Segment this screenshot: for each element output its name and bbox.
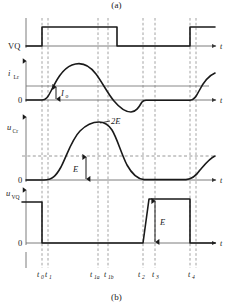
panel-ilr: i Lr 0 t I o: [8, 61, 223, 112]
ilr-axis-label: t: [220, 96, 223, 105]
uvq-axis-label: t: [220, 239, 223, 248]
io-annotation-sub: o: [66, 93, 69, 99]
figure-caption-a: (a): [0, 0, 233, 10]
io-annotation-main: I: [60, 88, 65, 98]
ucr-waveform: [26, 122, 215, 180]
uvq-label-main: u: [6, 188, 10, 198]
ilr-zero-label: 0: [18, 95, 22, 105]
tick-t1a-main: t: [90, 270, 93, 279]
ucr-label-main: u: [7, 122, 11, 132]
tick-t3-sub: 3: [155, 274, 159, 280]
ucr-label-sub: Cr: [13, 128, 19, 134]
vq-label: VQ: [8, 41, 20, 51]
tick-t2-main: t: [138, 270, 141, 279]
tick-t1b-main: t: [104, 270, 107, 279]
tick-t0-main: t: [37, 270, 40, 279]
uvq-waveform: [22, 199, 215, 243]
tick-t1-main: t: [45, 270, 48, 279]
ilr-label-main: i: [8, 68, 11, 78]
vq-axis-label: t: [220, 42, 223, 51]
tick-t3-main: t: [152, 270, 155, 279]
ucr-zero-label: 0: [18, 175, 22, 185]
tick-t4-main: t: [188, 270, 191, 279]
waveform-figure: (a): [0, 0, 233, 306]
panel-uvq: u VQ 0 t E: [6, 188, 223, 248]
tick-t1b-sub: 1b: [108, 274, 114, 280]
ucr-e-label: E: [72, 164, 79, 174]
uvq-zero-label: 0: [18, 238, 22, 248]
tick-t1-sub: 1: [49, 274, 52, 280]
ilr-waveform: [26, 64, 215, 112]
uvq-e-label: E: [159, 217, 166, 227]
figure-caption-b: (b): [0, 292, 233, 302]
uvq-label-sub: VQ: [12, 194, 20, 200]
vq-waveform: [26, 27, 215, 46]
tick-t4-sub: 4: [192, 274, 195, 280]
ucr-peak-label: 2E: [111, 116, 121, 126]
ucr-axis-label: t: [220, 176, 223, 185]
panel-ucr: u Cr 0 t 2E E: [7, 116, 223, 185]
tick-t0-sub: 0: [41, 274, 44, 280]
tick-t2-sub: 2: [142, 274, 145, 280]
time-tick-labels: t 0 t 1 t 1a t 1b t 2 t 3 t 4: [37, 270, 195, 280]
tick-t1a-sub: 1a: [94, 274, 100, 280]
time-gridlines: [42, 18, 196, 268]
waveform-svg: VQ t i Lr 0 t I o u Cr 0 t: [0, 0, 233, 306]
ilr-label-sub: Lr: [14, 74, 19, 80]
panel-vq: VQ t: [8, 18, 223, 51]
